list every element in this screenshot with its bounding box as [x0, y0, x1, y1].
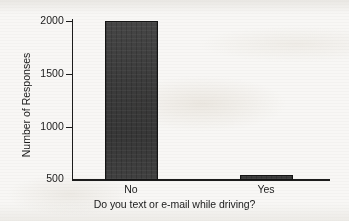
y-tick-mark-1500: [66, 74, 72, 75]
y-tick-label-1500: 1500: [4, 67, 64, 79]
y-axis-line: [72, 19, 73, 180]
x-axis-title: Do you text or e-mail while driving?: [0, 198, 349, 210]
bar-no: [105, 21, 158, 180]
y-tick-mark-2000: [66, 21, 72, 22]
y-tick-label-1000: 1000: [4, 120, 64, 132]
y-tick-mark-1000: [66, 127, 72, 128]
y-tick-label-500: 500: [4, 172, 64, 184]
y-tick-label-2000: 2000: [4, 14, 64, 26]
x-tick-label-yes: Yes: [231, 183, 301, 195]
bar-chart-figure: 2000 1500 1000 500 Number of Responses N…: [0, 0, 349, 221]
y-axis-title: Number of Responses: [20, 30, 32, 180]
bar-yes: [240, 175, 293, 180]
x-tick-label-no: No: [96, 183, 166, 195]
